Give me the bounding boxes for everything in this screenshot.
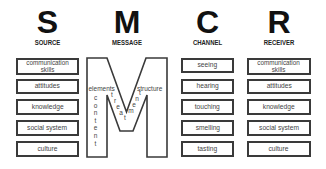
receiver-item-label: knowledge: [263, 104, 295, 111]
receiver-item-knowledge: knowledge: [247, 99, 311, 115]
receiver-item-attitudes: attitudes: [247, 79, 311, 94]
channel-item-label: seeing: [198, 62, 218, 69]
channel-item-label: tasting: [198, 146, 218, 153]
receiver-item-label: social system: [259, 125, 299, 132]
receiver-item-label: attitudes: [266, 83, 291, 90]
channel-item-label: hearing: [196, 83, 218, 90]
channel-item-touching: touching: [181, 99, 234, 115]
channel-item-seeing: seeing: [181, 58, 234, 73]
receiver-item-social-system: social system: [247, 120, 311, 136]
receiver-item-label: culture: [269, 146, 289, 153]
channel-item-smelling: smelling: [181, 120, 234, 136]
receiver-item-culture: culture: [247, 141, 311, 157]
channel-item-label: touching: [195, 104, 220, 111]
channel-item-tasting: tasting: [181, 141, 234, 157]
receiver-item-communication-skills: communicationskills: [247, 58, 311, 75]
channel-item-hearing: hearing: [181, 79, 234, 94]
receiver-item-line2: skills: [258, 67, 300, 74]
channel-item-label: smelling: [195, 125, 219, 132]
